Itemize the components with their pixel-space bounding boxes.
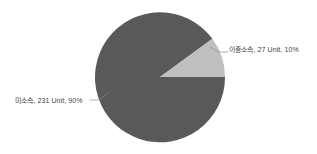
data-label-미소속: 미소속, 231 Unit, 90% [15, 96, 83, 105]
pie-chart-canvas [0, 0, 317, 154]
data-label-이중소속: 이중소속, 27 Unit, 10% [229, 45, 299, 54]
pie-chart-figure: 이중소속, 27 Unit, 10% 미소속, 231 Unit, 90% [0, 0, 317, 154]
pie-slice-미소속[interactable] [95, 12, 225, 142]
